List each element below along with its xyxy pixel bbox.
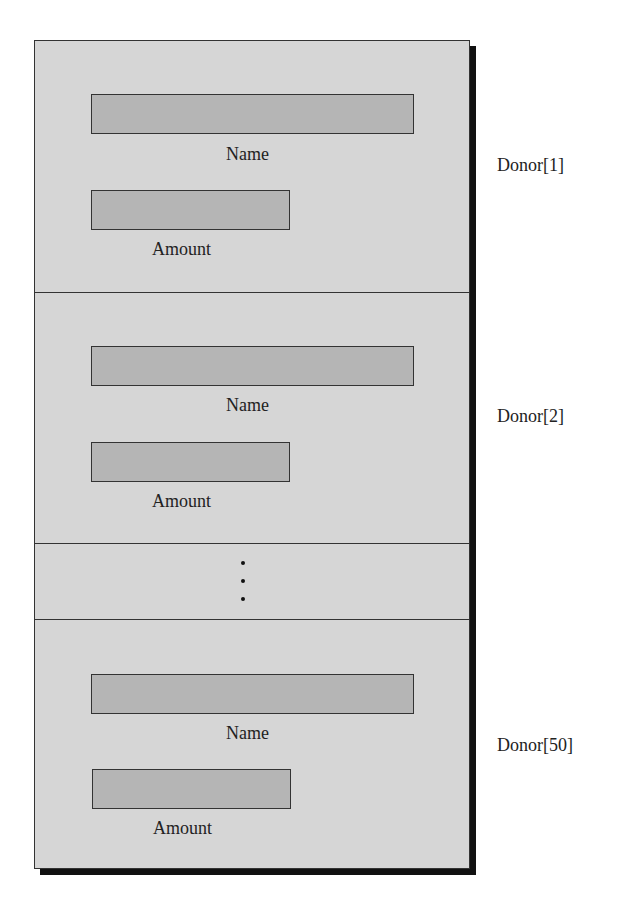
amount-field-50 [92, 769, 291, 809]
record-label-50: Donor[50] [497, 735, 573, 756]
name-field-50 [91, 674, 414, 714]
name-label-1: Name [226, 144, 269, 165]
name-field-2 [91, 346, 414, 386]
amount-label-1: Amount [152, 239, 211, 260]
record-label-1: Donor[1] [497, 155, 564, 176]
ellipsis-dot [241, 579, 245, 583]
record-divider [35, 292, 469, 293]
ellipsis-dot [241, 597, 245, 601]
name-label-2: Name [226, 395, 269, 416]
name-label-50: Name [226, 723, 269, 744]
record-label-2: Donor[2] [497, 406, 564, 427]
record-divider [35, 619, 469, 620]
amount-field-1 [91, 190, 290, 230]
name-field-1 [91, 94, 414, 134]
amount-field-2 [91, 442, 290, 482]
amount-label-2: Amount [152, 491, 211, 512]
ellipsis-dot [241, 561, 245, 565]
record-divider [35, 543, 469, 544]
amount-label-50: Amount [153, 818, 212, 839]
donor-array: Name Amount Name Amount Name Amount [34, 40, 470, 869]
